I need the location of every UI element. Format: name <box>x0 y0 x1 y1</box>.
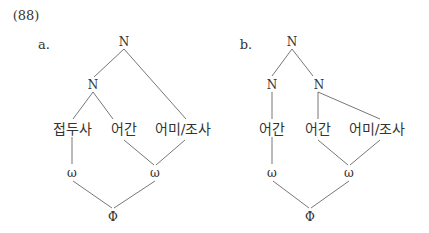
tree-a-inner-node: N <box>88 79 99 91</box>
tree-b-left-node: N <box>267 79 278 91</box>
tree-b-phi: Φ <box>305 211 315 223</box>
tree-b-omega-2: ω <box>344 167 354 179</box>
tree-a-root-node: N <box>119 36 130 48</box>
tree-b-label: b. <box>240 38 252 51</box>
tree-a-leaf-ending: 어미/조사 <box>155 122 212 136</box>
tree-a-phi: Φ <box>108 211 118 223</box>
tree-b-right-node: N <box>314 79 325 91</box>
tree-b-leaf-ending: 어미/조사 <box>349 122 406 136</box>
tree-a-omega-2: ω <box>150 167 160 179</box>
tree-b-leaf-stem-2: 어간 <box>305 122 331 136</box>
tree-a-omega-1: ω <box>67 167 77 179</box>
tree-b-root-node: N <box>287 36 298 48</box>
tree-a-leaf-stem: 어간 <box>111 122 137 136</box>
example-number: (88) <box>13 9 40 22</box>
tree-a-label: a. <box>38 38 50 51</box>
tree-a-leaf-prefix: 접두사 <box>53 122 92 136</box>
tree-branches <box>0 0 429 233</box>
tree-b-omega-1: ω <box>267 167 277 179</box>
tree-b-leaf-stem-1: 어간 <box>259 122 285 136</box>
